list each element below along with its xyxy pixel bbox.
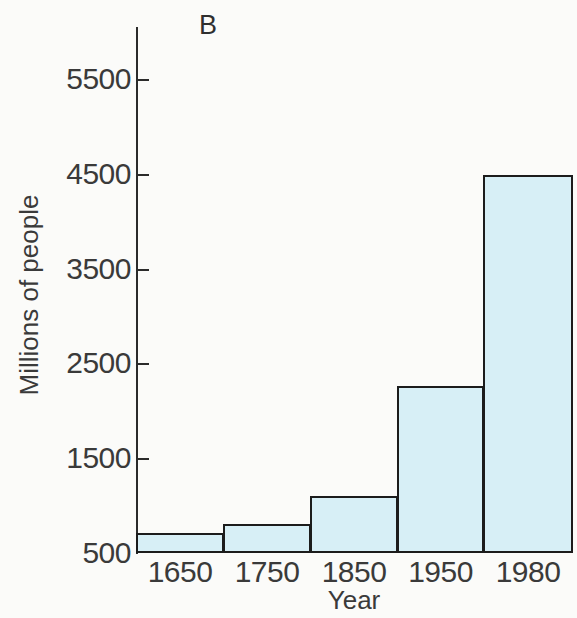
x-tick-label-1950: 1950 [397, 556, 484, 588]
y-tick-label-2500: 2500 [11, 348, 131, 378]
y-tick-4500 [138, 174, 149, 176]
bar-1950 [397, 386, 484, 553]
y-tick-1500 [138, 458, 149, 460]
y-tick-label-1500: 1500 [11, 443, 131, 473]
figure-panel-b: B Millions of people Year 5500 4500 3500… [0, 0, 577, 618]
x-tick-label-1750: 1750 [223, 556, 311, 588]
y-tick-5500 [138, 79, 149, 81]
y-tick-3500 [138, 269, 149, 271]
bar-1980 [483, 175, 573, 553]
x-tick-label-1650: 1650 [136, 556, 224, 588]
y-tick-label-500: 500 [11, 538, 131, 568]
bar-1850 [310, 496, 398, 553]
y-tick-label-3500: 3500 [11, 254, 131, 284]
y-tick-label-4500: 4500 [11, 159, 131, 189]
y-tick-2500 [138, 363, 149, 365]
x-tick-label-1850: 1850 [310, 556, 398, 588]
plot-area: 5500 4500 3500 2500 1500 500 1650 1750 1… [0, 0, 577, 618]
y-tick-label-5500: 5500 [11, 64, 131, 94]
y-axis-line [136, 27, 138, 554]
x-tick-label-1980: 1980 [483, 556, 573, 588]
bar-1650 [136, 533, 224, 553]
bar-1750 [223, 524, 311, 553]
